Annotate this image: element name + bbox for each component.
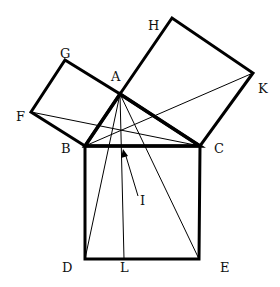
label-C: C xyxy=(214,141,224,156)
label-E: E xyxy=(220,260,230,275)
square-ABFG xyxy=(31,60,120,146)
label-G: G xyxy=(60,46,70,61)
label-I: I xyxy=(140,193,145,208)
label-F: F xyxy=(16,109,25,124)
label-A: A xyxy=(110,69,121,84)
label-B: B xyxy=(61,141,71,156)
arrowhead-I xyxy=(121,149,128,158)
label-D: D xyxy=(62,260,72,275)
pointer-I xyxy=(125,153,138,196)
label-L: L xyxy=(120,260,129,275)
label-H: H xyxy=(148,18,159,33)
line-A-L xyxy=(120,94,124,259)
label-K: K xyxy=(258,81,268,96)
pythagorean-diagram: A B C D E F G H K L I xyxy=(0,0,280,287)
